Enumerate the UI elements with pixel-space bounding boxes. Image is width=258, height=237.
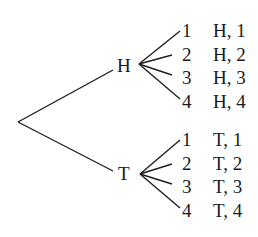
branch-number-H-3: 3 [182, 68, 192, 87]
edge-H-3 [139, 64, 172, 75]
branch-number-T-1: 1 [182, 130, 192, 149]
edge-T-2 [140, 164, 172, 174]
outcome-T-2: T, 2 [213, 154, 242, 173]
outcome-H-3: H, 3 [213, 68, 246, 87]
edge-root-to-H [18, 70, 113, 122]
edge-T-1 [140, 140, 180, 174]
edge-H-4 [139, 64, 180, 99]
branch-number-H-1: 1 [182, 21, 192, 40]
tree-diagram: H T 1 2 3 4 H, 1 H, 2 H, 3 H, 4 1 2 3 4 … [0, 0, 258, 237]
branch-number-T-3: 3 [182, 177, 192, 196]
outcome-T-3: T, 3 [213, 177, 242, 196]
branch-number-T-4: 4 [182, 201, 192, 220]
edge-root-to-T [18, 122, 113, 171]
branch-number-T-2: 2 [182, 154, 192, 173]
edge-T-3 [140, 174, 172, 184]
node-label-H: H [117, 56, 131, 75]
outcome-H-1: H, 1 [213, 21, 246, 40]
outcome-T-4: T, 4 [213, 201, 242, 220]
edge-T-4 [140, 174, 180, 208]
outcome-T-1: T, 1 [213, 130, 242, 149]
branch-number-H-2: 2 [182, 45, 192, 64]
outcome-H-2: H, 2 [213, 45, 246, 64]
outcome-H-4: H, 4 [213, 92, 246, 111]
node-label-T: T [118, 164, 130, 183]
branch-number-H-4: 4 [182, 92, 192, 111]
